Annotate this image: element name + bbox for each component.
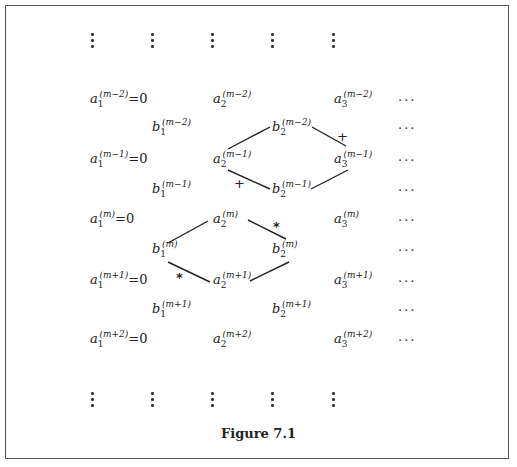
term-sub: 2	[280, 127, 286, 137]
term-base: a	[334, 151, 342, 166]
term-a1-m: a1(m)=0	[90, 212, 134, 225]
term-sub: 1	[98, 219, 104, 229]
term-sup: (m−1)	[282, 179, 311, 189]
term-sup: (m+2)	[223, 329, 252, 339]
row-ellipsis: ···	[398, 334, 416, 347]
term-a2-m+1: a2(m+1)	[213, 273, 251, 286]
row-ellipsis: ···	[398, 275, 416, 288]
term-b2-m: b2(m)	[272, 242, 298, 255]
term-sup: (m−1)	[100, 149, 129, 159]
term-sub: 1	[98, 339, 104, 349]
star-sign-lower: *	[176, 271, 183, 284]
term-sup: (m−2)	[100, 89, 129, 99]
term-b1-m: b1(m)	[152, 242, 178, 255]
edge-a2m1-b2m2	[228, 127, 270, 149]
term-a3-m-1: a3(m−1)	[334, 152, 372, 165]
term-sup: (m−2)	[282, 117, 311, 127]
term-sup: (m+1)	[344, 270, 373, 280]
edge-a2m1-b2m	[250, 262, 289, 281]
term-a3-m: a3(m)	[334, 212, 359, 225]
term-base: a	[334, 211, 342, 226]
term-sup: (m+2)	[100, 329, 129, 339]
term-a1-m+1: a1(m+1)=0	[90, 273, 148, 286]
term-sub: 2	[221, 159, 227, 169]
term-sub: 2	[280, 189, 286, 199]
term-sup: (m+1)	[282, 299, 311, 309]
term-sup: (m+2)	[344, 329, 373, 339]
row-ellipsis: ···	[398, 94, 416, 107]
term-a2-m-2: a2(m−2)	[213, 92, 251, 105]
plus-sign-upper: +	[337, 130, 348, 143]
term-base: a	[90, 91, 98, 106]
term-a3-m+2: a3(m+2)	[334, 332, 372, 345]
term-sup: (m−2)	[344, 89, 373, 99]
term-sub: 2	[280, 309, 286, 319]
term-suffix: =0	[115, 211, 134, 226]
term-a1-m-1: a1(m−1)=0	[90, 152, 148, 165]
term-b2-m-1: b2(m−1)	[272, 182, 311, 195]
term-a1-m+2: a1(m+2)=0	[90, 332, 148, 345]
term-base: a	[334, 91, 342, 106]
term-a1-m-2: a1(m−2)=0	[90, 92, 148, 105]
term-sup: (m)	[282, 239, 298, 249]
term-sup: (m−2)	[223, 89, 252, 99]
term-base: a	[213, 151, 221, 166]
term-a2-m+2: a2(m+2)	[213, 332, 251, 345]
term-sub: 1	[98, 99, 104, 109]
term-sub: 3	[342, 339, 348, 349]
term-a3-m-2: a3(m−2)	[334, 92, 372, 105]
term-a2-m-1: a2(m−1)	[213, 152, 251, 165]
term-sub: 1	[160, 309, 166, 319]
term-sup: (m)	[162, 239, 178, 249]
term-sub: 3	[342, 99, 348, 109]
term-sub: 1	[98, 159, 104, 169]
term-b1-m-2: b1(m−2)	[152, 120, 191, 133]
term-base: a	[90, 211, 98, 226]
term-base: a	[334, 272, 342, 287]
term-b2-m-2: b2(m−2)	[272, 120, 311, 133]
term-sup: (m+1)	[100, 270, 129, 280]
term-base: a	[90, 151, 98, 166]
row-ellipsis: ···	[398, 304, 416, 317]
term-base: a	[90, 331, 98, 346]
term-sup: (m−1)	[162, 179, 191, 189]
term-sup: (m)	[344, 209, 360, 219]
term-sub: 1	[98, 280, 104, 290]
term-base: a	[213, 272, 221, 287]
term-sup: (m)	[100, 209, 116, 219]
edge-b1m-a2m1	[168, 262, 210, 282]
term-sub: 2	[221, 339, 227, 349]
term-sub: 3	[342, 280, 348, 290]
term-b1-m-1: b1(m−1)	[152, 182, 191, 195]
term-b2-m+1: b2(m+1)	[272, 302, 311, 315]
rhombus-lines	[0, 0, 517, 467]
term-sub: 2	[221, 219, 227, 229]
term-a3-m+1: a3(m+1)	[334, 273, 372, 286]
star-sign-upper: *	[273, 220, 280, 233]
term-base: a	[213, 211, 221, 226]
term-suffix: =0	[128, 91, 147, 106]
row-ellipsis: ···	[398, 184, 416, 197]
figure-caption: Figure 7.1	[0, 426, 517, 441]
term-sub: 3	[342, 159, 348, 169]
term-b1-m+1: b1(m+1)	[152, 302, 191, 315]
term-sup: (m)	[223, 209, 239, 219]
term-sub: 1	[160, 189, 166, 199]
term-a2-m: a2(m)	[213, 212, 238, 225]
term-sub: 1	[160, 249, 166, 259]
term-base: a	[213, 331, 221, 346]
term-sub: 2	[221, 99, 227, 109]
term-suffix: =0	[128, 272, 147, 287]
term-sup: (m+1)	[162, 299, 191, 309]
term-sup: (m−2)	[162, 117, 191, 127]
term-sup: (m+1)	[223, 270, 252, 280]
term-sup: (m−1)	[344, 149, 373, 159]
term-sub: 2	[221, 280, 227, 290]
term-base: a	[334, 331, 342, 346]
term-suffix: =0	[128, 151, 147, 166]
term-suffix: =0	[128, 331, 147, 346]
term-sup: (m−1)	[223, 149, 252, 159]
edge-b2m1-a3m1	[311, 170, 348, 189]
term-base: a	[90, 272, 98, 287]
edge-a2m-b2m	[248, 220, 286, 239]
